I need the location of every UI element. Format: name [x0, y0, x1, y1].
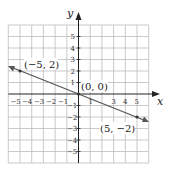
- svg-text:3: 3: [112, 98, 116, 106]
- svg-text:2: 2: [71, 68, 75, 76]
- svg-text:−1: −1: [67, 102, 77, 110]
- svg-text:−5: −5: [11, 98, 21, 106]
- point-5-neg2: [135, 115, 138, 118]
- svg-text:4: 4: [71, 45, 76, 53]
- point-neg5-2: [18, 69, 21, 72]
- coordinate-plane: y x −5 −4 −3 −2 −1 1 3 4 5 5 4 3 2 1 −1 …: [0, 0, 169, 173]
- svg-text:−5: −5: [67, 148, 77, 156]
- svg-text:5: 5: [135, 98, 139, 106]
- svg-text:1: 1: [71, 79, 75, 87]
- svg-text:−4: −4: [22, 98, 33, 106]
- point-origin: [77, 92, 80, 95]
- point-label-neg5-2: (−5, 2): [24, 59, 59, 70]
- svg-text:5: 5: [71, 33, 75, 41]
- svg-text:3: 3: [71, 56, 75, 64]
- svg-text:4: 4: [123, 98, 128, 106]
- svg-text:−4: −4: [67, 137, 78, 145]
- point-label-5-neg2: (5, −2): [100, 123, 135, 134]
- x-axis-label: x: [157, 95, 164, 108]
- svg-text:−2: −2: [67, 114, 77, 122]
- y-axis-label: y: [66, 7, 74, 20]
- svg-text:−2: −2: [46, 98, 56, 106]
- point-label-origin: (0, 0): [81, 81, 108, 92]
- y-axis-arrow-icon: [76, 12, 82, 20]
- svg-text:−3: −3: [34, 98, 44, 106]
- svg-text:−3: −3: [67, 125, 77, 133]
